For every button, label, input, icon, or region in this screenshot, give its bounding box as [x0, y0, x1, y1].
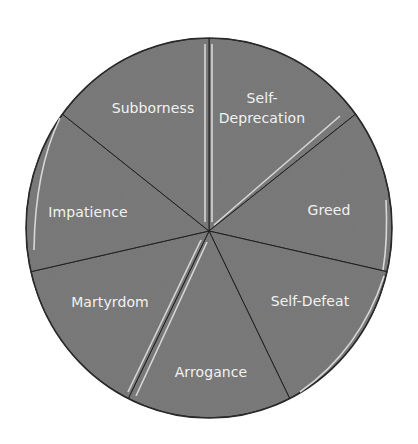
slice-label-greed: Greed — [308, 200, 351, 220]
slice-label-line: Greed — [308, 200, 351, 220]
slice-label-line: Self-Defeat — [271, 291, 350, 311]
slice-label-line: Self- — [219, 88, 306, 108]
slice-label-line: Arrogance — [175, 362, 248, 382]
slice-label-line: Martyrdom — [71, 292, 149, 312]
slice-label-line: Impatience — [48, 202, 127, 222]
slice-label-line: Subborness — [112, 98, 195, 118]
slice-label-line: Deprecation — [219, 108, 306, 128]
slice-label-martyrdom: Martyrdom — [71, 292, 149, 312]
slice-label-self-defeat: Self-Defeat — [271, 291, 350, 311]
slice-label-subborness: Subborness — [112, 98, 195, 118]
slice-label-impatience: Impatience — [48, 202, 127, 222]
slice-label-arrogance: Arrogance — [175, 362, 248, 382]
pie-slices — [26, 38, 392, 418]
slice-label-self-deprecation: Self-Deprecation — [219, 88, 306, 128]
